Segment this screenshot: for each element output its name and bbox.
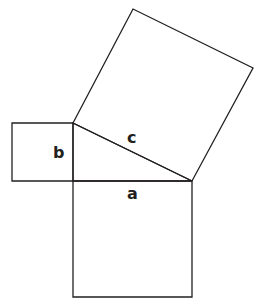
pythagorean-diagram: b c a: [0, 0, 265, 307]
square-on-hypotenuse-c: [73, 9, 253, 181]
label-b: b: [53, 143, 64, 162]
label-a: a: [127, 184, 138, 203]
label-c: c: [127, 128, 136, 147]
